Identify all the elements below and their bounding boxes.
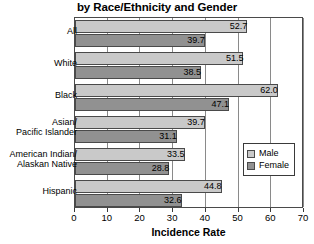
bar-row: 32.6 [75, 194, 302, 207]
bar-value-label: 38.5 [75, 66, 204, 79]
category-label-line2: Pacific Islander [16, 127, 77, 137]
bar-value-label: 39.7 [75, 34, 208, 47]
category-label-0: All [67, 26, 77, 36]
legend-swatch-male-icon [247, 150, 255, 158]
bar-value-label: 39.7 [75, 116, 208, 129]
bar-row: 39.7 [75, 116, 302, 129]
chart-legend: Male Female [243, 143, 295, 176]
category-label-2: Black [55, 90, 77, 100]
bar-row: 52.7 [75, 20, 302, 33]
x-tick-label-40: 40 [193, 212, 217, 223]
bar-value-label: 51.5 [75, 52, 246, 65]
bar-value-label: 28.8 [75, 162, 172, 175]
x-tick-label-10: 10 [95, 212, 119, 223]
category-label-line1: Asian/ [16, 117, 77, 127]
bar-row: 44.8 [75, 180, 302, 193]
bar-value-label: 62.0 [75, 84, 281, 97]
category-label-line1: All [67, 26, 77, 36]
legend-item-male: Male [247, 148, 289, 159]
bar-row: 62.0 [75, 84, 302, 97]
x-tick-label-30: 30 [160, 212, 184, 223]
bar-value-label: 31.1 [75, 130, 180, 143]
chart-container: by Race/Ethnicity and Gender 52.739.751.… [0, 0, 314, 244]
x-tick-label-20: 20 [127, 212, 151, 223]
bar-value-label: 44.8 [75, 180, 225, 193]
bar-row: 31.1 [75, 130, 302, 143]
chart-title: by Race/Ethnicity and Gender [0, 1, 314, 13]
legend-label-female: Female [259, 161, 289, 170]
bar-value-label: 32.6 [75, 194, 185, 207]
bar-row: 38.5 [75, 66, 302, 79]
category-label-5: Hispanic [42, 186, 77, 196]
category-label-line1: White [54, 58, 77, 68]
x-axis-title: Incidence Rate [74, 226, 303, 238]
category-label-line2: Alaskan Native [9, 159, 77, 169]
bar-row: 47.1 [75, 98, 302, 111]
x-tick-label-0: 0 [62, 212, 86, 223]
bar-value-label: 52.7 [75, 20, 250, 33]
category-label-line1: Black [55, 90, 77, 100]
bar-value-label: 47.1 [75, 98, 232, 111]
x-tick-label-70: 70 [291, 212, 314, 223]
bar-value-label: 33.5 [75, 148, 188, 161]
legend-label-male: Male [259, 149, 279, 158]
category-label-1: White [54, 58, 77, 68]
category-label-4: American Indian/Alaskan Native [9, 149, 77, 169]
bar-row: 39.7 [75, 34, 302, 47]
legend-item-female: Female [247, 160, 289, 171]
category-label-line1: American Indian/ [9, 149, 77, 159]
x-tick-label-50: 50 [226, 212, 250, 223]
bar-row: 51.5 [75, 52, 302, 65]
legend-swatch-female-icon [247, 162, 255, 170]
category-label-3: Asian/Pacific Islander [16, 117, 77, 137]
gridline-70 [303, 18, 304, 207]
x-tick-label-60: 60 [258, 212, 282, 223]
category-label-line1: Hispanic [42, 186, 77, 196]
plot-area: 52.739.751.538.562.047.139.731.133.528.8… [74, 17, 303, 208]
